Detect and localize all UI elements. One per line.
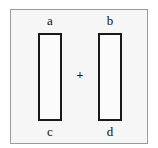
right-rectangle [98,33,122,121]
label-b: b [107,14,114,27]
left-rectangle [38,33,62,121]
label-c: c [47,125,53,138]
label-d: d [107,125,114,138]
plus-symbol: + [77,69,84,81]
label-a: a [47,14,53,27]
